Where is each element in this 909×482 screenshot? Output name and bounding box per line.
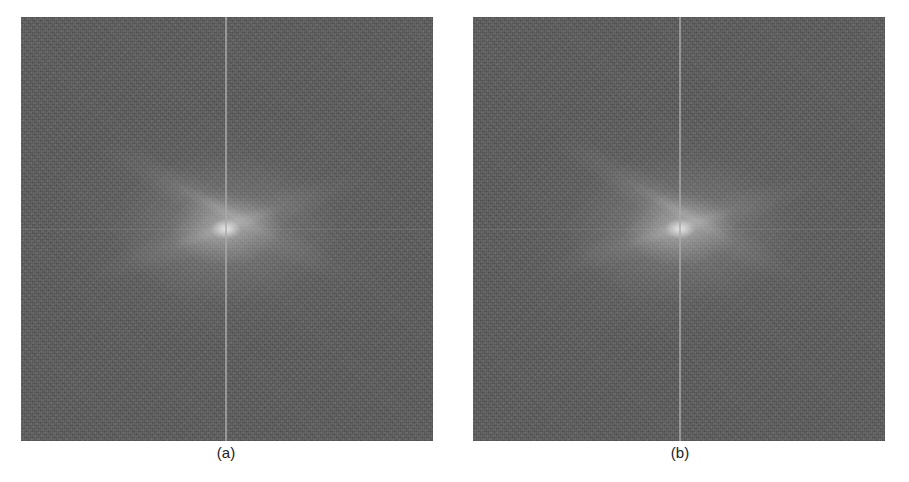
spectrum-panel-a (21, 17, 433, 441)
vertical-axis-line (679, 17, 681, 441)
vertical-axis-line (225, 17, 227, 441)
spectrum-panel-b (473, 17, 885, 441)
caption-a: (a) (206, 444, 246, 461)
caption-b: (b) (660, 444, 700, 461)
